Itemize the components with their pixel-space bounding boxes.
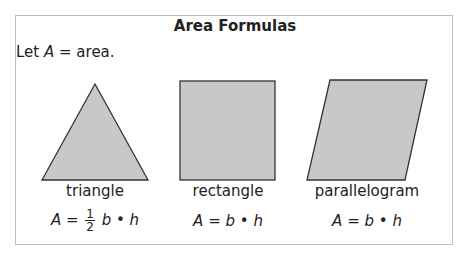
rectangle-formula: A = b • h <box>158 212 298 230</box>
rectangle-label: rectangle <box>158 182 298 200</box>
parallelogram-label: parallelogram <box>297 182 437 200</box>
triangle-shape <box>42 84 148 180</box>
triangle-formula: A = 12 b • h <box>25 208 165 233</box>
parallelogram-shape <box>307 80 427 180</box>
rectangle-shape <box>180 81 275 180</box>
triangle-label: triangle <box>25 182 165 200</box>
parallelogram-formula: A = b • h <box>297 212 437 230</box>
